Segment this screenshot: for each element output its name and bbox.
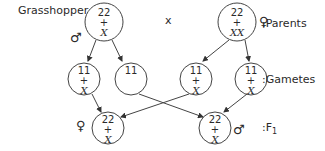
cross-symbol: x bbox=[165, 14, 172, 27]
f1-male-chromosomes: 22+X bbox=[203, 115, 227, 145]
f1-female-chromosomes: 22+X bbox=[96, 115, 120, 145]
gamete-2: 11 bbox=[119, 66, 143, 76]
parent-female-chromosomes: 22+XX bbox=[223, 8, 251, 38]
parent-male-chromosomes: 22+X bbox=[90, 8, 118, 38]
gamete-3: 11+X bbox=[184, 66, 208, 96]
row-label-parents: :Parents bbox=[262, 17, 307, 30]
gamete-4: 11+X bbox=[239, 66, 263, 96]
f1-female-symbol-icon: ♀ bbox=[76, 118, 86, 133]
species-label: Grasshopper bbox=[18, 4, 88, 17]
gamete-1: 11+X bbox=[72, 66, 96, 96]
row-label-gametes: :Gametes bbox=[262, 73, 315, 86]
male-symbol-icon: ♂ bbox=[70, 30, 82, 45]
row-label-f1: :F1 bbox=[262, 121, 277, 136]
f1-male-symbol-icon: ♂ bbox=[233, 122, 245, 137]
